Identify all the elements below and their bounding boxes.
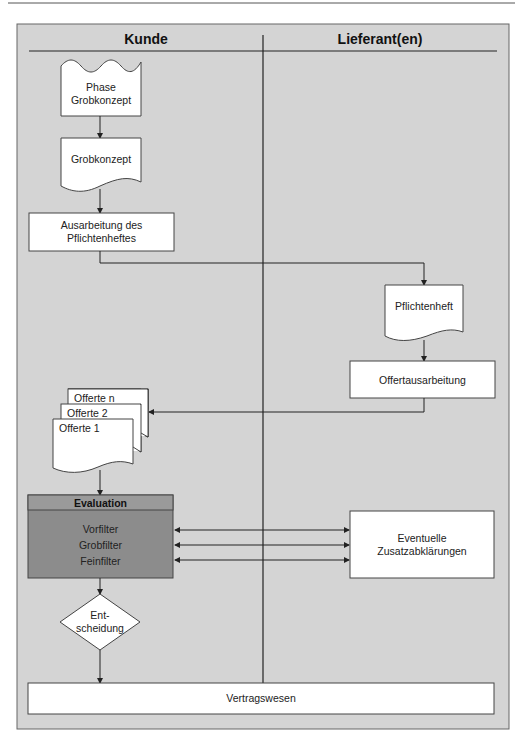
offerte-2-label: Offerte 2 [67, 407, 108, 419]
entscheidung-line1: Ent- [60, 609, 140, 622]
phase-line1: Phase [61, 81, 141, 94]
node-offertausarbeitung-label: Offertausarbeitung [350, 374, 495, 387]
entscheidung-line2: scheidung [60, 622, 140, 635]
ausarbeitung-line2: Pflichtenheftes [29, 232, 174, 245]
node-vertragswesen-label: Vertragswesen [28, 692, 494, 705]
offerte-2-fill [133, 405, 141, 451]
node-phase-grobkonzept-label: Phase Grobkonzept [61, 81, 141, 107]
node-ausarbeitung-label: Ausarbeitung des Pflichtenheftes [29, 219, 174, 245]
node-entscheidung-label: Ent- scheidung [60, 609, 140, 635]
ausarbeitung-line1: Ausarbeitung des [29, 219, 174, 232]
evaluation-item-feinfilter: Feinfilter [28, 555, 173, 567]
node-pflichtenheft-label: Pflichtenheft [385, 300, 463, 313]
offerte-1-label: Offerte 1 [59, 422, 100, 434]
evaluation-title: Evaluation [28, 497, 173, 509]
zusatz-line2: Zusatzabklärungen [350, 545, 494, 558]
lane-header-kunde: Kunde [29, 31, 263, 47]
lane-header-lieferant: Lieferant(en) [263, 31, 497, 47]
offerte-n-label: Offerte n [74, 392, 115, 404]
offerte-n-fill [141, 390, 148, 436]
phase-line2: Grobkonzept [61, 94, 141, 107]
zusatz-line1: Eventuelle [350, 532, 494, 545]
evaluation-item-vorfilter: Vorfilter [28, 523, 173, 535]
node-zusatzabklaerungen-label: Eventuelle Zusatzabklärungen [350, 532, 494, 558]
evaluation-item-grobfilter: Grobfilter [28, 539, 173, 551]
node-grobkonzept-label: Grobkonzept [61, 153, 141, 166]
